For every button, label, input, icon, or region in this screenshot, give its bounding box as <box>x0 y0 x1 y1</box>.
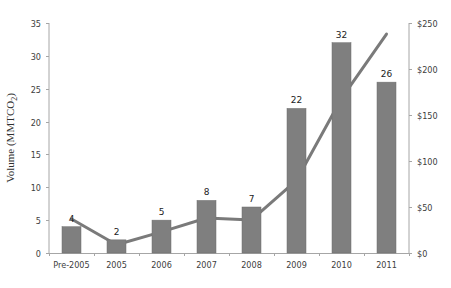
volume-bar-series <box>62 43 396 253</box>
right-y-tick-label: $50 <box>417 203 432 213</box>
x-tick-label: 2005 <box>106 260 127 270</box>
x-tick-label: 2010 <box>331 260 352 270</box>
x-tick-label: Pre-2005 <box>53 260 89 270</box>
left-y-tick-label: 20 <box>31 118 41 128</box>
bar-value-label: 32 <box>336 30 347 40</box>
bar <box>152 220 171 253</box>
right-y-tick-label: $200 <box>417 65 438 75</box>
left-y-tick-label: 10 <box>31 183 41 193</box>
right-y-tick-label: $250 <box>417 19 438 29</box>
right-y-tick-label: $100 <box>417 157 438 167</box>
left-y-tick-label: 5 <box>36 216 41 226</box>
bar <box>332 43 351 253</box>
bar-value-label: 8 <box>204 187 210 197</box>
bar-value-label: 26 <box>381 69 393 79</box>
left-y-tick-label: 0 <box>36 249 41 259</box>
bar <box>107 240 126 253</box>
left-y-tick-label: 15 <box>31 150 41 160</box>
right-y-tick-label: $0 <box>417 249 427 259</box>
bar <box>377 82 396 253</box>
right-y-axis: $0$50$100$150$200$250 <box>409 19 438 259</box>
x-axis: Pre-20052005200620072008200920102011 <box>49 253 410 270</box>
bar-value-label: 2 <box>114 227 120 237</box>
bar <box>287 108 306 253</box>
x-tick-label: 2008 <box>241 260 262 270</box>
y-axis-title: Volume (MMTCO2) <box>4 93 19 183</box>
bar-value-label: 7 <box>249 194 255 204</box>
bar <box>62 227 81 253</box>
left-y-axis: 05101520253035 <box>31 19 49 259</box>
bar-value-label: 22 <box>291 95 302 105</box>
left-y-tick-label: 30 <box>31 52 41 62</box>
left-y-tick-label: 35 <box>31 19 41 29</box>
left-y-tick-label: 25 <box>31 85 41 95</box>
bar <box>197 200 216 253</box>
bar <box>242 207 261 253</box>
bar-value-label: 5 <box>159 207 165 217</box>
bar-line-chart: 05101520253035 $0$50$100$150$200$250 Pre… <box>0 0 451 288</box>
x-tick-label: 2009 <box>286 260 307 270</box>
x-tick-label: 2011 <box>376 260 397 270</box>
x-tick-label: 2006 <box>151 260 172 270</box>
bar-value-label: 4 <box>69 214 75 224</box>
right-y-tick-label: $150 <box>417 111 438 121</box>
x-tick-label: 2007 <box>196 260 217 270</box>
